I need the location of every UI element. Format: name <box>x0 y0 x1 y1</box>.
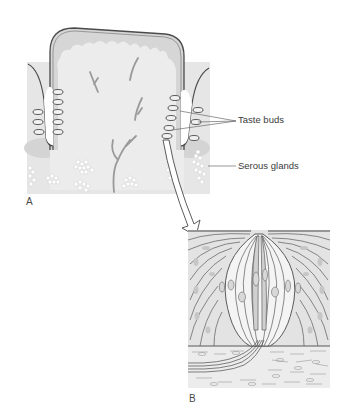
label-serous-glands: Serous glands <box>238 160 299 171</box>
panel-b-illustration <box>188 230 330 388</box>
label-taste-buds: Taste buds <box>238 114 284 125</box>
panel-letter-b: B <box>189 393 196 404</box>
panel-a-illustration <box>24 28 236 194</box>
panel-letter-a: A <box>26 196 33 207</box>
taste-bud-figure: Taste buds Serous glands A B <box>0 0 344 414</box>
